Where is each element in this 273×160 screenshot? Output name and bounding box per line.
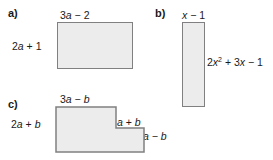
dimension-label-a-left: 2a + 1 <box>12 41 42 52</box>
l-shape-c <box>55 106 145 153</box>
dimension-label-c-outer-right: a − b <box>143 131 167 142</box>
figure-canvas: a) 3a − 2 2a + 1 b) x − 1 2x2 + 3x − 1 c… <box>0 0 273 160</box>
l-shape-c-polygon <box>56 107 144 152</box>
dimension-label-b-right: 2x2 + 3x − 1 <box>207 57 263 68</box>
part-label-a: a) <box>8 7 18 19</box>
dimension-label-c-top: 3a − b <box>60 94 90 105</box>
dimension-label-b-top: x − 1 <box>182 10 205 21</box>
rectangle-a <box>57 22 133 69</box>
dimension-label-c-left: 2a + b <box>11 119 41 130</box>
part-label-b: b) <box>155 7 165 19</box>
dimension-label-a-top: 3a − 2 <box>60 10 90 21</box>
l-shape-c-svg <box>55 106 145 153</box>
part-label-c: c) <box>8 98 18 110</box>
rectangle-b <box>182 22 205 107</box>
